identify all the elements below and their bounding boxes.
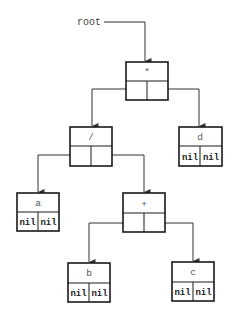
tree-node-c: c nil nil xyxy=(172,262,214,301)
tree-node-plus: + xyxy=(123,193,165,232)
left-child-nil: nil xyxy=(182,153,199,163)
tree-node-multiply: * xyxy=(126,62,168,100)
right-child-nil: nil xyxy=(203,153,220,163)
expression-tree-diagram: root * / d nil nil a nil nil xyxy=(0,0,236,316)
left-child-nil: nil xyxy=(19,218,36,228)
node-label: c xyxy=(190,267,196,278)
node-label: + xyxy=(141,199,147,210)
node-label: d xyxy=(197,132,203,143)
node-label: a xyxy=(35,198,41,209)
left-child-nil: nil xyxy=(174,288,191,298)
tree-node-a: a nil nil xyxy=(17,193,59,231)
right-child-nil: nil xyxy=(195,288,212,298)
right-child-nil: nil xyxy=(40,218,57,228)
tree-node-divide: / xyxy=(70,127,112,166)
node-label: * xyxy=(144,67,150,78)
root-pointer-arrow xyxy=(104,22,145,61)
node-label: / xyxy=(88,132,94,143)
node-label: b xyxy=(86,268,92,279)
tree-node-b: b nil nil xyxy=(68,263,110,302)
left-child-nil: nil xyxy=(70,289,87,299)
root-label: root xyxy=(77,17,101,28)
right-child-nil: nil xyxy=(91,289,108,299)
tree-node-d: d nil nil xyxy=(179,127,222,166)
